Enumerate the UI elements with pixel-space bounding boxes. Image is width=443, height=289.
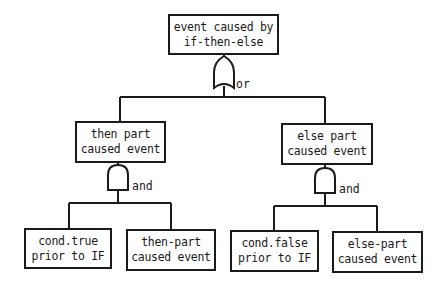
fault-tree-diagram: or and and event caused by if-then-else …: [0, 0, 443, 289]
cond-true-line2: prior to IF: [32, 249, 105, 264]
then-part-event-box: then part caused event: [75, 121, 166, 163]
else-part-event-box: else part caused event: [281, 123, 373, 165]
cond-false-line1: cond.false: [241, 236, 307, 251]
else-part-line1: else part: [297, 129, 357, 144]
then-part-caused-line1: then-part: [141, 235, 201, 250]
or-gate-label: or: [236, 77, 250, 91]
and-gate-right-icon: [315, 168, 335, 193]
root-event-line1: event caused by: [174, 20, 273, 35]
then-part-line2: caused event: [81, 142, 160, 157]
root-event-line2: if-then-else: [184, 35, 263, 50]
and-gate-left-label: and: [132, 179, 153, 193]
or-gate-icon: [214, 56, 234, 88]
else-part-caused-event-box: else-part caused event: [332, 231, 423, 273]
then-part-caused-line2: caused event: [131, 250, 210, 265]
cond-true-line1: cond.true: [38, 234, 98, 249]
and-gate-right-label: and: [339, 182, 360, 196]
cond-false-event-box: cond.false prior to IF: [230, 230, 319, 272]
then-part-caused-event-box: then-part caused event: [126, 229, 216, 271]
then-part-line1: then part: [91, 127, 151, 142]
cond-false-line2: prior to IF: [238, 251, 311, 266]
else-part-line2: caused event: [287, 144, 366, 159]
and-gate-left-icon: [108, 165, 128, 190]
cond-true-event-box: cond.true prior to IF: [24, 228, 112, 269]
else-part-caused-line2: caused event: [338, 252, 417, 267]
root-event-box: event caused by if-then-else: [168, 14, 279, 55]
else-part-caused-line1: else-part: [348, 237, 408, 252]
